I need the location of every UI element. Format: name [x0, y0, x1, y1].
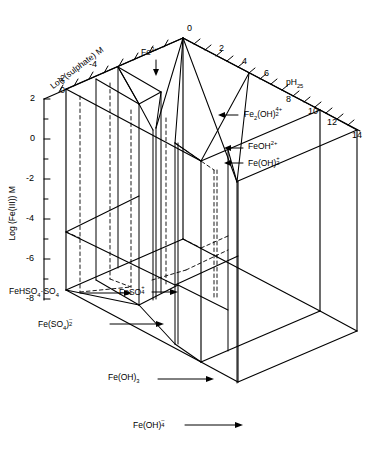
species-label-fe3: Fe3+	[141, 48, 158, 57]
feoh3-arrow	[158, 376, 214, 382]
species-fe2oh2-updown-sub: 2	[276, 112, 283, 117]
species-fe3-text: Fe	[141, 47, 151, 57]
species-feoh4-charge: –4	[161, 418, 164, 428]
ph-tick-4: 4	[242, 57, 247, 66]
species-label-feso4: FeSO+4	[119, 286, 145, 296]
iron-tick-2: 2	[30, 94, 35, 103]
predominance-diagram-figure: Log (sulphate) M -4 -2 0 pH25 0 2 4 6 8 …	[0, 0, 385, 454]
sulphate-tick-minus4: -4	[89, 60, 97, 69]
species-feoh2-charge: +2	[276, 156, 279, 166]
species-feoh3-text: Fe(OH)	[108, 372, 136, 382]
iron-tick-0: 0	[30, 134, 35, 143]
species-feso42-text: Fe(SO	[38, 319, 63, 329]
fe3-arrow	[153, 60, 159, 76]
feso42-arrow	[110, 321, 164, 327]
ph-tick-6: 6	[264, 69, 269, 78]
top-face-division-lines	[96, 67, 161, 130]
ph-axis-label-text: pH	[286, 77, 297, 87]
ph-tick-10: 10	[308, 107, 318, 116]
species-feoh4-updown-sub: 4	[161, 423, 164, 428]
interior-vertical-walls	[96, 67, 237, 383]
species-feoh2-text: Fe(OH)	[248, 158, 276, 168]
species-fehso4so4-mid: ·SO	[41, 286, 56, 296]
species-fehso4so4-sub2: 4	[56, 292, 59, 298]
ph-tick-12: 12	[327, 118, 337, 127]
species-label-feoh4: Fe(OH)–4	[133, 419, 165, 429]
species-feoh2-updown-sub: 2	[276, 161, 279, 166]
outer-box-vertical-edges	[66, 38, 320, 362]
iron-axis-title: Log (Fe(III)) M	[8, 186, 17, 240]
ph-tick-14: 14	[352, 131, 362, 140]
ph-axis-label-sub: 25	[297, 83, 303, 89]
species-fe2oh2-charge: 4+2	[276, 107, 283, 117]
feoh2-arrow	[224, 160, 243, 166]
species-fe3-sup: 3+	[151, 46, 158, 52]
diagram-drawing	[0, 0, 385, 454]
species-feoh3-sub: 3	[136, 378, 139, 384]
outer-box-top-face	[66, 38, 320, 161]
species-label-feoh2: Fe(OH)+2	[248, 157, 280, 167]
species-fe2oh2-mid: (OH)	[257, 109, 275, 119]
species-feoh4-text: Fe(OH)	[133, 420, 161, 430]
species-feso42-updown-sub: 2	[69, 322, 72, 327]
species-feso42-charge: –2	[69, 317, 72, 327]
sulphate-tick-minus2: -2	[57, 74, 65, 83]
ph-tick-8: 8	[286, 95, 291, 104]
outer-box-bottom-face	[66, 239, 320, 362]
fe2oh2-arrow	[218, 112, 238, 118]
species-feoh2plus-sup: 2+	[271, 140, 278, 146]
species-label-fehso4so4: FeHSO4·SO4	[9, 287, 59, 296]
species-label-fe2oh2: Fe2(OH)4+2	[244, 108, 282, 118]
iron-tick-minus6: -6	[26, 254, 34, 263]
species-label-feoh2plus: FeOH2+	[248, 142, 277, 151]
iron-axis-ticks	[44, 99, 50, 299]
ph-tick-2: 2	[219, 44, 224, 53]
ph-axis-title: pH25	[286, 78, 303, 87]
species-feoh2plus-text: FeOH	[248, 141, 271, 151]
iron-tick-minus2: -2	[26, 174, 34, 183]
species-feso4-charge: +4	[141, 285, 144, 295]
species-feso4-updown-sub: 4	[141, 290, 144, 295]
species-fe2oh2-text: Fe	[244, 109, 254, 119]
species-label-feoh3: Fe(OH)3	[108, 373, 140, 382]
ph-tick-0: 0	[187, 24, 192, 33]
hidden-dashed-lines	[66, 83, 228, 300]
lower-fold-lines	[66, 280, 228, 362]
species-label-feso42: Fe(SO4)–2	[38, 318, 72, 328]
species-feso4-text: FeSO	[119, 287, 141, 297]
iron-tick-minus4: -4	[26, 214, 34, 223]
species-fehso4so4-text: FeHSO	[9, 286, 37, 296]
sulphate-tick-0: 0	[60, 86, 65, 95]
internal-slanted-plane	[66, 196, 238, 285]
feoh4-arrow	[185, 422, 243, 428]
